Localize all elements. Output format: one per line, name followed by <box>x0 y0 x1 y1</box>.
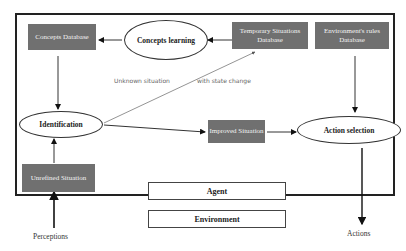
agent-label: Agent <box>148 182 286 200</box>
temporary-situations-database-node: Temporary Situations Database <box>232 22 308 49</box>
edge-label-with-state-change: with state change <box>197 77 251 84</box>
edge-label-unknown-situation: Unknown situation <box>114 77 170 84</box>
environment-rules-database-node: Environment's rules Database <box>315 22 389 49</box>
concepts-database-node: Concepts Database <box>28 24 96 50</box>
perceptions-label: Perceptions <box>33 232 68 241</box>
actions-label: Actions <box>347 229 370 238</box>
concepts-learning-node: Concepts learning <box>124 20 208 60</box>
action-selection-node: Action selection <box>297 116 401 144</box>
unrefined-situation-node: Unrefined Situation <box>22 164 95 192</box>
identification-node: Identification <box>19 111 103 138</box>
improved-situation-node: Improved Situation <box>208 120 265 143</box>
environment-label: Environment <box>148 210 286 228</box>
